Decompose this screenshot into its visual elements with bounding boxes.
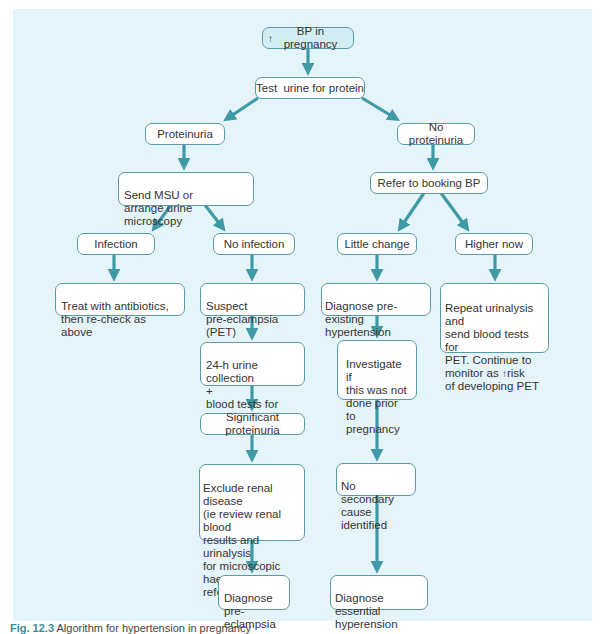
node-label: Proteinuria: [157, 128, 213, 141]
node-proteinuria: Proteinuria: [145, 123, 225, 145]
node-diagnose-pre-eclampsia: Diagnose pre-eclampsia: [218, 575, 290, 610]
node-suspect-pre-eclampsia: Suspect pre-eclampsia (PET): [200, 283, 305, 316]
node-little-change: Little change: [337, 233, 417, 255]
node-label: No proteinuria: [403, 121, 469, 147]
node-label: Infection: [94, 238, 137, 251]
figure-caption: Fig. 12.3 Algorithm for hypertension in …: [10, 622, 251, 634]
node-label: Test urine for protein: [256, 82, 364, 95]
node-significant-proteinuria: Significant proteinuria: [200, 413, 305, 435]
node-diagnose-essential-hypertension: Diagnose essential hyperension: [330, 575, 428, 610]
node-no-proteinuria: No proteinuria: [397, 123, 475, 145]
node-bp-in-pregnancy: ↑BP in pregnancy: [262, 27, 354, 49]
node-treat-with-antibiotics: Treat with antibiotics, then re-check as…: [55, 283, 185, 316]
node-infection: Infection: [77, 233, 155, 255]
node-label: No secondary cause identified: [341, 480, 394, 531]
node-send-msu: Send MSU or arrange urine microscopy: [118, 172, 254, 206]
node-investigate: Investigate if this was not done prior t…: [337, 340, 417, 400]
node-label: Refer to booking BP: [378, 177, 481, 190]
node-exclude-renal-disease: Exclude renal disease (ie review renal b…: [199, 464, 305, 541]
arrow-refer-to-little-change: [401, 193, 424, 227]
arrow-send-msu-to-no-infection: [205, 205, 222, 227]
figure-label: Fig. 12.3: [10, 622, 54, 634]
arrow-test-to-no-proteinuria: [362, 98, 395, 118]
node-label: Significant proteinuria: [203, 411, 302, 437]
node-label: Little change: [344, 238, 409, 251]
node-refer-to-booking-bp: Refer to booking BP: [370, 172, 488, 194]
node-label: Investigate if this was not done prior t…: [346, 358, 407, 435]
arrow-test-to-proteinuria: [228, 98, 258, 118]
node-no-infection: No infection: [213, 233, 295, 255]
node-no-secondary-cause: No secondary cause identified: [336, 463, 416, 496]
node-test-urine-for-protein: Test urine for protein: [255, 77, 365, 99]
node-higher-now: Higher now: [455, 233, 533, 255]
caption-text: Algorithm for hypertension in pregnancy: [56, 622, 250, 634]
node-label: Higher now: [465, 238, 523, 251]
node-diagnose-pre-existing-hypertension: Diagnose pre-existing hypertension: [321, 283, 431, 316]
node-label: No infection: [224, 238, 285, 251]
arrow-refer-to-higher-now: [441, 193, 466, 227]
node-24h-urine-collection: 24-h urine collection + blood tests for …: [200, 342, 305, 386]
node-repeat-urinalysis: Repeat urinalysis and send blood tests f…: [440, 283, 549, 353]
node-label: BP in pregnancy: [273, 25, 348, 51]
